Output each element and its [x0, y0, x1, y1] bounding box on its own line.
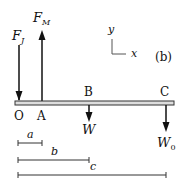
- axis-x-label: x: [131, 47, 138, 60]
- point-label-c: C: [160, 85, 169, 99]
- force-fm: FM: [32, 10, 51, 101]
- dimension-a-label: a: [27, 128, 34, 141]
- force-w0: W0: [157, 105, 175, 152]
- force-fm-label: FM: [32, 10, 51, 27]
- axes-indicator: y x: [107, 23, 138, 60]
- dimension-c-label: c: [90, 160, 96, 173]
- force-w-label: W: [82, 122, 97, 137]
- force-w: W: [82, 105, 97, 137]
- point-label-a: A: [36, 109, 46, 123]
- force-fj: FJ: [11, 28, 25, 101]
- point-label-b: B: [84, 85, 93, 99]
- axis-y-label: y: [107, 23, 115, 36]
- beam: [15, 101, 174, 105]
- dimension-b-label: b: [51, 145, 58, 158]
- point-label-o: O: [14, 109, 24, 123]
- free-body-diagram: FJ FM y x (b) B C O A W W0 a: [0, 0, 188, 193]
- axes-corner-icon: [112, 39, 126, 54]
- force-w0-label: W0: [157, 135, 175, 152]
- force-fj-label: FJ: [11, 28, 25, 45]
- panel-label: (b): [155, 50, 172, 64]
